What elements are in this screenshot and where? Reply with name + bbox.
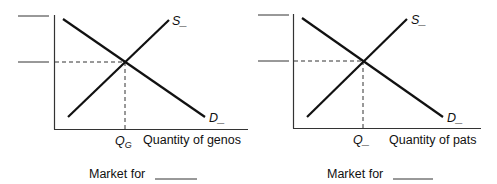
x-axis-label: Quantity of genos bbox=[143, 133, 241, 147]
market-caption: Market for bbox=[89, 167, 145, 181]
demand-label: D_ bbox=[209, 111, 225, 125]
right-diagram: S_ D_ Q_ Quantity of pats Market for bbox=[258, 13, 481, 181]
x-axis-label: Quantity of pats bbox=[389, 133, 477, 147]
left-diagram: S_ D_ QG Quantity of genos Market for bbox=[18, 14, 248, 181]
quantity-label: QG bbox=[115, 134, 132, 150]
market-caption: Market for bbox=[327, 167, 383, 181]
supply-label: S_ bbox=[411, 13, 426, 27]
supply-label: S_ bbox=[172, 14, 187, 28]
supply-curve bbox=[68, 20, 169, 117]
quantity-label: Q_ bbox=[353, 133, 370, 147]
demand-label: D_ bbox=[447, 111, 463, 125]
supply-curve bbox=[307, 19, 407, 117]
supply-demand-diagrams: S_ D_ QG Quantity of genos Market for S_… bbox=[0, 0, 497, 184]
